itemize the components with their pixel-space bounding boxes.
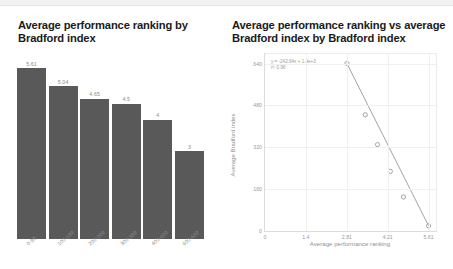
bar-chart-panel: Average performance ranking by Bradford … (0, 5, 222, 269)
bar-series: 5.615.044.654.543 (17, 51, 204, 239)
bar-rect (49, 86, 78, 239)
scatter-y-tick-label: 0 (259, 228, 262, 234)
scatter-gridline-horizontal (265, 64, 437, 65)
scatter-plot-area: y = -242.64x + 1.4e+3 r²: 0.96 640480320… (264, 53, 437, 232)
scatter-y-axis-label: Average Bradford index (230, 85, 236, 205)
bar-x-axis-ticks: 0-99100-199200-299300-399400-499600-699 (17, 239, 204, 269)
scatter-x-tick-label: 0 (264, 234, 267, 240)
scatter-y-tick-label: 640 (253, 61, 262, 67)
bar-value-label: 4.65 (89, 91, 100, 97)
bar-value-label: 4.5 (122, 96, 130, 102)
bar-value-label: 5.61 (26, 61, 37, 67)
scatter-gridline-horizontal (265, 105, 437, 106)
scatter-x-tick-label: 2.81 (342, 234, 352, 240)
charts-page: Average performance ranking by Bradford … (0, 5, 453, 269)
bar-chart-plot-area: 5.615.044.654.543 0-99100-199200-299300-… (17, 51, 204, 239)
bar-chart-title: Average performance ranking by Bradford … (18, 19, 208, 44)
scatter-gridline-vertical (388, 53, 389, 231)
scatter-y-tick-label: 480 (253, 102, 262, 108)
bar-value-label: 5.04 (58, 79, 69, 85)
scatter-point[interactable] (388, 169, 392, 173)
scatter-gridline-vertical (347, 53, 348, 231)
scatter-chart-panel: Average performance ranking vs average B… (222, 5, 453, 269)
bar-rect (80, 99, 109, 239)
bar-value-label: 3 (188, 144, 191, 150)
scatter-data-layer (265, 53, 437, 231)
scatter-x-axis-label: Average performance ranking (264, 241, 436, 247)
scatter-y-tick-label: 320 (253, 144, 262, 150)
bar-rect (17, 68, 46, 239)
scatter-x-tick-label: 5.61 (423, 234, 433, 240)
bar-column: 5.04 (49, 51, 78, 239)
bar-column: 4.65 (80, 51, 109, 239)
bar-value-label: 4 (156, 112, 159, 118)
scatter-gridline-horizontal (265, 147, 437, 148)
scatter-x-tick-label: 4.21 (383, 234, 393, 240)
bar-rect (143, 120, 172, 240)
bar-column: 4 (143, 51, 172, 239)
scatter-point[interactable] (375, 143, 379, 147)
scatter-point[interactable] (363, 113, 367, 117)
scatter-gridline-vertical (306, 53, 307, 231)
scatter-gridline-vertical (429, 53, 430, 231)
scatter-x-tick-label: 1.4 (302, 234, 309, 240)
scatter-point[interactable] (401, 195, 405, 199)
scatter-y-tick-label: 160 (253, 186, 262, 192)
bar-column: 5.61 (17, 51, 46, 239)
bar-rect (112, 104, 141, 239)
scatter-chart-title: Average performance ranking vs average B… (232, 19, 450, 44)
scatter-gridline-horizontal (265, 189, 437, 190)
bar-column: 3 (175, 51, 204, 239)
bar-rect (175, 151, 204, 239)
bar-column: 4.5 (112, 51, 141, 239)
